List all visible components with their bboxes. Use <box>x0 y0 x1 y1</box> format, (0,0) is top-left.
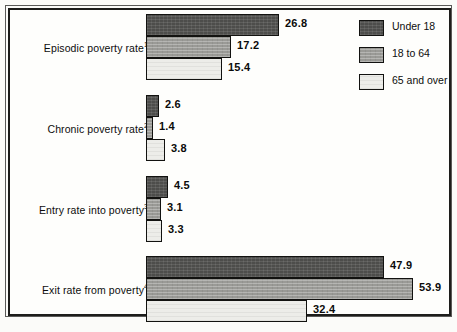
bar-65-and-over <box>146 220 162 242</box>
bar-under-18 <box>146 95 159 117</box>
bar-65-and-over <box>146 139 165 161</box>
legend-item-65-and-over: 65 and over <box>359 72 457 97</box>
bar-18-to-64 <box>146 117 153 139</box>
legend-item-under-18: Under 18 <box>359 18 457 43</box>
bar-18-to-64 <box>146 198 161 220</box>
light-swatch-icon <box>359 74 384 90</box>
bar-18-to-64 <box>146 36 231 58</box>
category-label-3: Exit rate from poverty4 <box>42 283 148 296</box>
bar-value-0-0: 26.8 <box>285 17 307 29</box>
dark-swatch-icon <box>359 20 384 36</box>
bar-value-3-1: 53.9 <box>419 281 441 293</box>
bar-65-and-over <box>146 58 222 80</box>
medium-swatch-icon <box>359 47 384 63</box>
bar-under-18 <box>146 176 168 198</box>
bar-under-18 <box>146 14 279 36</box>
bar-value-1-2: 3.8 <box>171 142 187 154</box>
bar-value-2-1: 3.1 <box>167 201 183 213</box>
bar-value-2-2: 3.3 <box>168 223 184 235</box>
bar-value-2-0: 4.5 <box>174 179 190 191</box>
legend-item-18-to-64: 18 to 64 <box>359 45 457 70</box>
bar-value-0-2: 15.4 <box>228 61 250 73</box>
category-label-0: Episodic poverty rate1 <box>44 41 148 54</box>
legend-label-2: 65 and over <box>392 74 447 86</box>
bar-65-and-over <box>146 300 307 322</box>
bar-value-1-1: 1.4 <box>159 120 175 132</box>
grouped-bar-chart: Episodic poverty rate1 26.8 17.2 15.4 Ch… <box>0 0 457 332</box>
bar-value-3-2: 32.4 <box>313 303 335 315</box>
plot-area: Episodic poverty rate1 26.8 17.2 15.4 Ch… <box>10 10 445 310</box>
bar-18-to-64 <box>146 278 413 300</box>
bar-under-18 <box>146 256 384 278</box>
chart-legend: Under 18 18 to 64 65 and over <box>359 18 457 99</box>
legend-label-1: 18 to 64 <box>392 47 430 59</box>
bar-value-1-0: 2.6 <box>165 98 181 110</box>
legend-label-0: Under 18 <box>392 20 435 32</box>
category-label-2: Entry rate into poverty3 <box>39 203 148 216</box>
category-label-1: Chronic poverty rate2 <box>47 122 148 135</box>
bar-value-3-0: 47.9 <box>390 259 412 271</box>
bar-value-0-1: 17.2 <box>237 39 259 51</box>
